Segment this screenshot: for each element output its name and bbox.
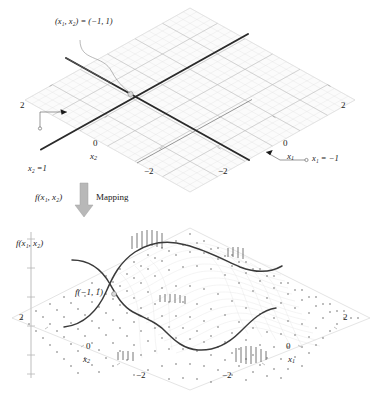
bottom-axis-label-x1: x1 <box>288 355 295 364</box>
surface-sample-dots <box>21 233 359 383</box>
surface-point-label: f(−1, 1) <box>75 288 103 297</box>
bottom-x1-tick-neg2: −2 <box>222 371 232 380</box>
mapping-figure: (x₁, x₂) = (−1, 1) 2 0 −2 x2 2 0 −2 x1 x… <box>0 0 383 403</box>
vertical-axis <box>27 232 35 378</box>
bottom-x1-tick-2: 2 <box>343 313 348 322</box>
surface-footprint <box>12 228 370 390</box>
bottom-x2-tick-0: 0 <box>86 342 91 351</box>
bottom-x1-tick-0: 0 <box>286 342 291 351</box>
surface-intersection-marker <box>112 292 117 297</box>
surface-curve-x2 <box>64 242 282 327</box>
bottom-x2-tick-neg2: −2 <box>136 371 146 380</box>
bottom-axis-label-x2: x2 <box>83 355 90 364</box>
bottom-vertical-axis-label: f(x₁, x₂) <box>16 239 43 248</box>
bottom-x2-tick-2: 2 <box>19 313 24 322</box>
bottom-plot-graphics <box>0 0 383 403</box>
